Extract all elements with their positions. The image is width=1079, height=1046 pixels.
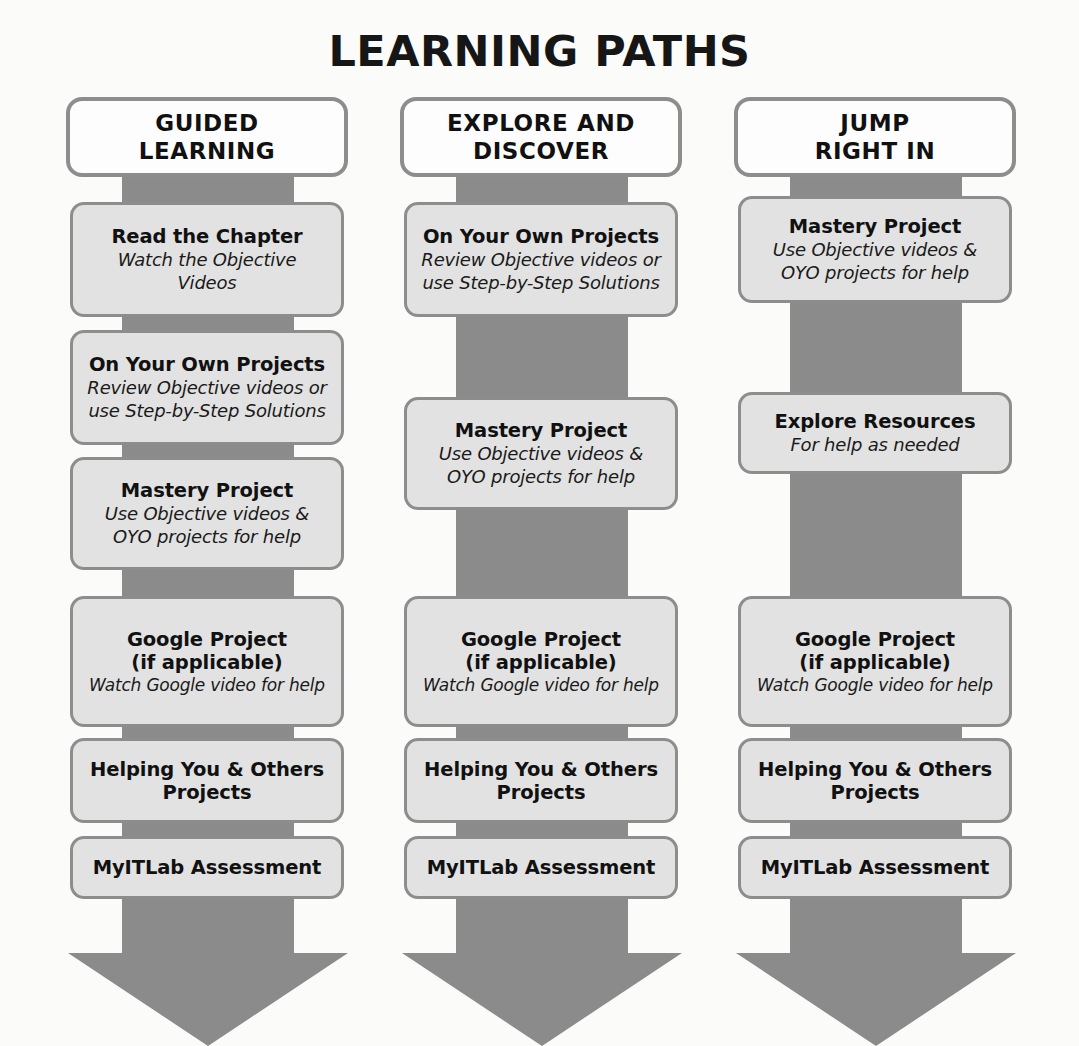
path-step-title: MyITLab Assessment bbox=[427, 856, 656, 879]
path-header-label: RIGHT IN bbox=[815, 137, 936, 165]
path-step-box[interactable]: Google Project(if applicable)Watch Googl… bbox=[738, 596, 1012, 727]
path-step-box[interactable]: On Your Own ProjectsReview Objective vid… bbox=[404, 202, 678, 317]
path-step-title: Google Project bbox=[461, 628, 621, 651]
path-step-box[interactable]: Google Project(if applicable)Watch Googl… bbox=[70, 596, 344, 727]
path-step-subtitle: Review Objective videos or bbox=[421, 249, 660, 271]
path-step-title: On Your Own Projects bbox=[423, 225, 659, 248]
path-step-title: Mastery Project bbox=[455, 419, 627, 442]
path-header-label: JUMP bbox=[840, 109, 909, 137]
path-step-box[interactable]: Google Project(if applicable)Watch Googl… bbox=[404, 596, 678, 727]
path-step-box[interactable]: Mastery ProjectUse Objective videos &OYO… bbox=[404, 397, 678, 510]
path-step-title: Read the Chapter bbox=[111, 225, 302, 248]
path-step-title: Explore Resources bbox=[774, 410, 975, 433]
path-step-box[interactable]: Explore ResourcesFor help as needed bbox=[738, 392, 1012, 474]
path-step-title: MyITLab Assessment bbox=[93, 856, 322, 879]
path-step-title: Google Project bbox=[127, 628, 287, 651]
path-step-subtitle: OYO projects for help bbox=[113, 526, 301, 548]
path-step-title: (if applicable) bbox=[131, 651, 282, 674]
path-step-subtitle: Watch Google video for help bbox=[423, 675, 659, 695]
path-header-label: DISCOVER bbox=[473, 137, 609, 165]
path-step-title: Google Project bbox=[795, 628, 955, 651]
page-title: LEARNING PATHS bbox=[0, 26, 1079, 76]
path-step-subtitle: Watch Google video for help bbox=[757, 675, 993, 695]
path-step-subtitle: Use Objective videos & bbox=[439, 443, 643, 465]
path-step-box[interactable]: MyITLab Assessment bbox=[404, 836, 678, 899]
path-step-subtitle: Use Objective videos & bbox=[105, 503, 309, 525]
path-step-title: Projects bbox=[497, 781, 586, 804]
path-step-title: (if applicable) bbox=[465, 651, 616, 674]
path-header-label: GUIDED bbox=[155, 109, 259, 137]
path-step-subtitle: Review Objective videos or bbox=[87, 377, 326, 399]
arrow-head-icon bbox=[68, 953, 348, 1046]
path-header-label: LEARNING bbox=[139, 137, 276, 165]
path-step-title: (if applicable) bbox=[799, 651, 950, 674]
path-header-jump-right-in[interactable]: JUMPRIGHT IN bbox=[734, 97, 1016, 177]
path-step-subtitle: use Step-by-Step Solutions bbox=[422, 272, 659, 294]
path-step-title: On Your Own Projects bbox=[89, 353, 325, 376]
path-step-box[interactable]: Mastery ProjectUse Objective videos &OYO… bbox=[70, 457, 344, 570]
path-step-subtitle: OYO projects for help bbox=[447, 466, 635, 488]
arrow-head-icon bbox=[402, 953, 682, 1046]
path-step-subtitle: Videos bbox=[177, 272, 236, 294]
path-step-box[interactable]: On Your Own ProjectsReview Objective vid… bbox=[70, 330, 344, 445]
learning-paths-diagram: GUIDEDLEARNINGRead the ChapterWatch the … bbox=[0, 97, 1079, 1003]
path-column-jump-right-in: JUMPRIGHT INMastery ProjectUse Objective… bbox=[730, 97, 1020, 1003]
path-step-box[interactable]: MyITLab Assessment bbox=[70, 836, 344, 899]
path-step-box[interactable]: Helping You & OthersProjects bbox=[404, 738, 678, 823]
path-step-title: Mastery Project bbox=[121, 479, 293, 502]
path-step-title: Mastery Project bbox=[789, 215, 961, 238]
path-column-explore-and-discover: EXPLORE ANDDISCOVEROn Your Own ProjectsR… bbox=[396, 97, 686, 1003]
path-step-subtitle: For help as needed bbox=[790, 434, 959, 456]
path-step-subtitle: use Step-by-Step Solutions bbox=[88, 400, 325, 422]
path-step-subtitle: OYO projects for help bbox=[781, 262, 969, 284]
path-step-title: Helping You & Others bbox=[758, 758, 992, 781]
path-step-title: Projects bbox=[163, 781, 252, 804]
path-step-title: MyITLab Assessment bbox=[761, 856, 990, 879]
path-step-box[interactable]: Mastery ProjectUse Objective videos &OYO… bbox=[738, 196, 1012, 303]
path-step-box[interactable]: Helping You & OthersProjects bbox=[738, 738, 1012, 823]
path-header-explore-and-discover[interactable]: EXPLORE ANDDISCOVER bbox=[400, 97, 682, 177]
path-header-label: EXPLORE AND bbox=[447, 109, 635, 137]
path-step-title: Helping You & Others bbox=[424, 758, 658, 781]
path-step-subtitle: Watch the Objective bbox=[118, 249, 297, 271]
arrow-head-icon bbox=[736, 953, 1016, 1046]
path-step-box[interactable]: MyITLab Assessment bbox=[738, 836, 1012, 899]
path-header-guided-learning[interactable]: GUIDEDLEARNING bbox=[66, 97, 348, 177]
path-step-subtitle: Watch Google video for help bbox=[89, 675, 325, 695]
path-column-guided-learning: GUIDEDLEARNINGRead the ChapterWatch the … bbox=[62, 97, 352, 1003]
path-step-subtitle: Use Objective videos & bbox=[773, 239, 977, 261]
path-step-title: Projects bbox=[831, 781, 920, 804]
path-step-box[interactable]: Helping You & OthersProjects bbox=[70, 738, 344, 823]
path-step-box[interactable]: Read the ChapterWatch the ObjectiveVideo… bbox=[70, 202, 344, 317]
path-step-title: Helping You & Others bbox=[90, 758, 324, 781]
